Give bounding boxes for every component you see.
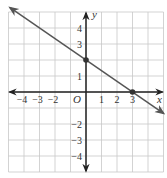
x-tick-label: 2 [115,94,120,105]
x-tick-label: 3 [130,94,135,105]
origin-label: O [73,93,81,105]
y-tick-label: −4 [71,151,82,162]
coordinate-graph: −4−3−2123431−2−3−4Oxy [0,0,167,178]
tick-labels: −4−3−2123431−2−3−4Oxy [17,8,162,162]
y-axis-label: y [91,8,97,20]
x-tick-label: −2 [48,94,59,105]
x-tick-label: −3 [32,94,43,105]
x-tick-label: −4 [17,94,28,105]
point-y-intercept [83,57,89,63]
x-axis-label: x [156,93,162,105]
y-tick-label: 4 [77,23,82,34]
y-tick-label: 1 [77,71,82,82]
y-tick-label: 3 [77,39,82,50]
x-tick-label: 1 [99,94,104,105]
axes [10,13,163,171]
y-tick-label: −3 [71,135,82,146]
y-tick-label: −2 [71,119,82,130]
